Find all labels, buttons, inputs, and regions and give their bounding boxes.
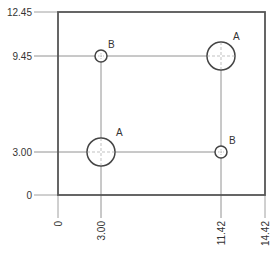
y-dim-9-45: 9.45 — [13, 51, 33, 62]
hole-b-top-left — [95, 50, 107, 62]
y-dim-3-00: 3.00 — [13, 147, 33, 158]
hole-tag-3: A — [116, 127, 123, 138]
hole-tag-1: B — [108, 39, 115, 50]
x-dim-14-42: 14.42 — [260, 221, 271, 246]
hole-a-bottom-left — [87, 138, 115, 166]
hole-a-top-right — [207, 42, 235, 70]
hole-layout-drawing: B A A B 12.45 9.45 3.00 0 0 3.00 11.42 1… — [0, 0, 276, 253]
hole-b-bottom-right — [215, 146, 227, 158]
hole-tag-2: A — [233, 31, 240, 42]
y-dim-12-45: 12.45 — [7, 7, 32, 18]
hole-tag-4: B — [229, 135, 236, 146]
x-dim-3-00: 3.00 — [96, 221, 107, 241]
x-dim-11-42: 11.42 — [216, 221, 227, 246]
y-dim-0: 0 — [26, 190, 32, 201]
x-dim-0: 0 — [53, 221, 64, 227]
